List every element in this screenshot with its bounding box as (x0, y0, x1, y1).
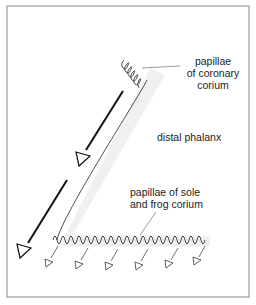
small-arrow-icon (193, 246, 205, 265)
label-distal-phalanx: distal phalanx (157, 131, 221, 143)
coronary-papillae (122, 60, 141, 88)
label-coronary-papillae: papillae of coronary corium (178, 55, 248, 91)
figure-frame (7, 6, 249, 297)
small-arrow-icon (75, 248, 88, 269)
small-arrow-icon (105, 249, 118, 270)
label-line: papillae (178, 55, 248, 67)
large-arrow-icon (17, 180, 67, 258)
sole-pointer (140, 212, 156, 235)
label-line: papillae of sole (130, 186, 203, 198)
coronary-pointer (142, 66, 180, 68)
hoof-corium-diagram (0, 0, 256, 305)
label-line: and frog corium (130, 198, 203, 210)
label-sole-papillae: papillae of sole and frog corium (130, 186, 203, 210)
small-arrow-icon (165, 248, 178, 268)
label-line: of coronary (178, 67, 248, 79)
small-arrow-icon (135, 249, 148, 270)
label-line: corium (178, 79, 248, 91)
small-arrow-icon (45, 246, 58, 267)
